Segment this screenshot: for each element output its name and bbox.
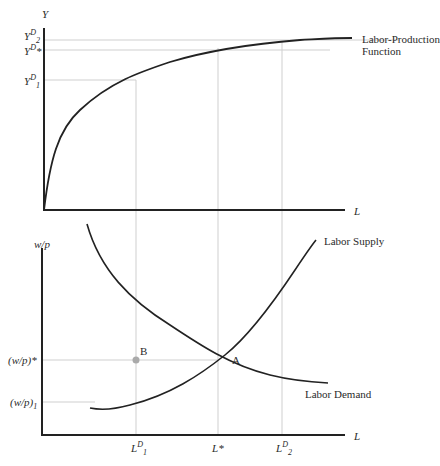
bottom-axes: [41, 248, 345, 436]
production-label-line1: Labor-Production: [362, 33, 440, 45]
point-b-label: B: [140, 345, 147, 357]
production-label-line2: Function: [362, 45, 401, 57]
bottom-x-axis-label: L: [354, 430, 360, 442]
bottom-y-axis-label: w/p: [34, 238, 50, 250]
labor-supply-label: Labor Supply: [324, 235, 384, 247]
tick-l1d: LD1: [131, 442, 147, 454]
top-y-axis-label: Y: [42, 8, 48, 20]
production-curve: [44, 38, 352, 210]
tick-wp-star: (w/p)*: [8, 354, 37, 366]
point-a-label: A: [232, 354, 240, 366]
bottom-guides: [42, 360, 218, 402]
tick-l2d: LD2: [276, 442, 292, 454]
tick-l-star: L*: [212, 442, 224, 454]
labor-demand-label: Labor Demand: [305, 388, 371, 400]
top-x-axis-label: L: [354, 205, 360, 217]
point-b-marker: [133, 357, 140, 364]
labor-demand-curve: [87, 224, 328, 383]
tick-y2d: YD2: [24, 30, 40, 42]
tick-y1d: YD1: [24, 75, 40, 87]
tick-yd-star: YD*: [24, 45, 41, 57]
tick-wp1: (w/p)1: [10, 396, 37, 408]
